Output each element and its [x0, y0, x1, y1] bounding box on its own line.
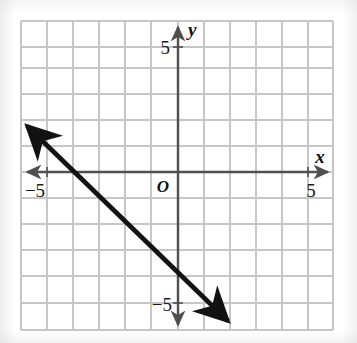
x-axis-tick-label-negative-5: −5 — [25, 180, 45, 201]
y-axis-tick-label-negative-5: −5 — [152, 294, 172, 315]
y-axis-tick-label-positive-5: 5 — [161, 37, 171, 58]
coordinate-plane-figure: y x O 5 −5 −5 5 — [0, 0, 357, 343]
y-axis-label: y — [186, 19, 197, 40]
x-axis-tick-label-positive-5: 5 — [306, 180, 316, 201]
x-axis-label: x — [314, 146, 325, 167]
coordinate-plane-svg: y x O 5 −5 −5 5 — [0, 0, 357, 343]
origin-label: O — [157, 177, 169, 196]
